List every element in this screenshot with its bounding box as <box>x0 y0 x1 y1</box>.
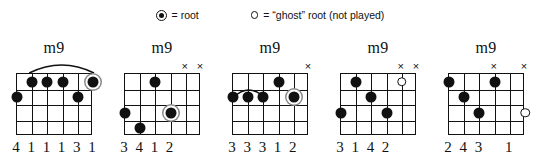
fingering-number: 1 <box>505 138 513 156</box>
finger-dot <box>474 107 485 118</box>
fretboard-grid <box>124 73 200 135</box>
fingering-number: 3 <box>73 138 81 156</box>
fretboard-grid <box>16 73 92 135</box>
legend-ghost-entry: = “ghost” root (not played) <box>251 10 385 21</box>
finger-dot <box>228 92 239 103</box>
finger-dot <box>135 123 146 134</box>
fingering-number: 4 <box>135 138 143 156</box>
barre-arc-icon <box>16 58 92 73</box>
string-line <box>479 74 480 134</box>
chord-diagram: m9××3142 <box>324 40 432 158</box>
fingering-row: 3412 <box>124 138 200 158</box>
fret-line <box>341 121 415 122</box>
mute-string-icon: × <box>305 61 311 72</box>
mute-string-icon: × <box>197 61 203 72</box>
chord-diagram: m9××2431 <box>432 40 540 158</box>
fret-line <box>449 105 523 106</box>
root-marker-icon <box>156 10 167 21</box>
finger-dot <box>366 92 377 103</box>
string-line <box>263 74 264 134</box>
fingering-number: 4 <box>459 138 467 156</box>
fingering-number: 1 <box>151 138 159 156</box>
fingering-number: 1 <box>58 138 66 156</box>
string-line <box>78 74 79 134</box>
fingering-number: 3 <box>259 138 267 156</box>
root-note-dot <box>165 107 176 118</box>
ghost-root-dot <box>520 108 530 118</box>
fingering-number: 1 <box>43 138 51 156</box>
finger-dot <box>243 92 254 103</box>
finger-dot <box>12 92 23 103</box>
legend-root-entry: = root <box>156 10 199 21</box>
finger-dot <box>150 76 161 87</box>
fingering-number: 2 <box>289 138 297 156</box>
fretboard-grid <box>448 73 524 135</box>
legend-ghost-label: = “ghost” root (not played) <box>263 10 384 21</box>
fret-line <box>17 121 91 122</box>
root-note-dot <box>288 92 299 103</box>
chord-diagram: m9××3412 <box>108 40 216 158</box>
finger-dot <box>72 92 83 103</box>
fingering-row: 2431 <box>448 138 524 158</box>
string-line <box>387 74 388 134</box>
finger-dot <box>489 76 500 87</box>
fretboard-grid <box>340 73 416 135</box>
fingering-number: 4 <box>12 138 20 156</box>
fingering-number: 2 <box>382 138 390 156</box>
finger-dot <box>273 76 284 87</box>
fingering-number: 3 <box>336 138 344 156</box>
fret-line <box>233 90 307 91</box>
finger-dot <box>57 76 68 87</box>
string-line <box>294 74 295 134</box>
finger-dot <box>444 76 455 87</box>
finger-dot <box>258 92 269 103</box>
chord-name: m9 <box>151 40 172 58</box>
legend-root-label: = root <box>172 10 199 21</box>
finger-dot <box>336 107 347 118</box>
fingering-number: 1 <box>88 138 96 156</box>
string-line <box>510 74 511 134</box>
chord-name: m9 <box>259 40 280 58</box>
fret-line <box>341 90 415 91</box>
fingering-number: 1 <box>27 138 35 156</box>
fret-line <box>233 121 307 122</box>
mute-string-icon: × <box>182 61 188 72</box>
string-line <box>248 74 249 134</box>
fret-line <box>125 105 199 106</box>
fingering-row: 3142 <box>340 138 416 158</box>
fingering-number: 2 <box>166 138 174 156</box>
chord-name: m9 <box>367 40 388 58</box>
string-line <box>186 74 187 134</box>
finger-dot <box>120 107 131 118</box>
fret-line <box>449 90 523 91</box>
string-line <box>371 74 372 134</box>
mute-string-icon: × <box>413 61 419 72</box>
finger-dot <box>42 76 53 87</box>
finger-dot <box>459 92 470 103</box>
fret-line <box>17 90 91 91</box>
chord-diagram: m9411131 <box>0 40 108 158</box>
fingering-number: 2 <box>444 138 452 156</box>
legend: = root = “ghost” root (not played) <box>0 4 540 26</box>
chord-diagram-row: m9411131m9××3412m9×33312m9××3142m9××2431 <box>0 40 540 159</box>
string-line <box>464 74 465 134</box>
finger-dot <box>27 76 38 87</box>
fingering-number: 4 <box>367 138 375 156</box>
chord-marks <box>16 58 92 73</box>
chord-name: m9 <box>43 40 64 58</box>
finger-dot <box>351 76 362 87</box>
mute-string-icon: × <box>521 61 527 72</box>
ghost-root-marker-icon <box>251 11 259 19</box>
fingering-number: 1 <box>274 138 282 156</box>
fret-line <box>233 105 307 106</box>
chord-name: m9 <box>475 40 496 58</box>
fingering-number: 1 <box>351 138 359 156</box>
fingering-number: 3 <box>228 138 236 156</box>
mute-string-icon: × <box>398 61 404 72</box>
fret-line <box>125 121 199 122</box>
chord-marks: ×× <box>124 58 200 73</box>
fingering-number: 3 <box>243 138 251 156</box>
chord-marks: ×× <box>448 58 524 73</box>
chord-marks: ×× <box>340 58 416 73</box>
root-note-dot <box>88 76 99 87</box>
